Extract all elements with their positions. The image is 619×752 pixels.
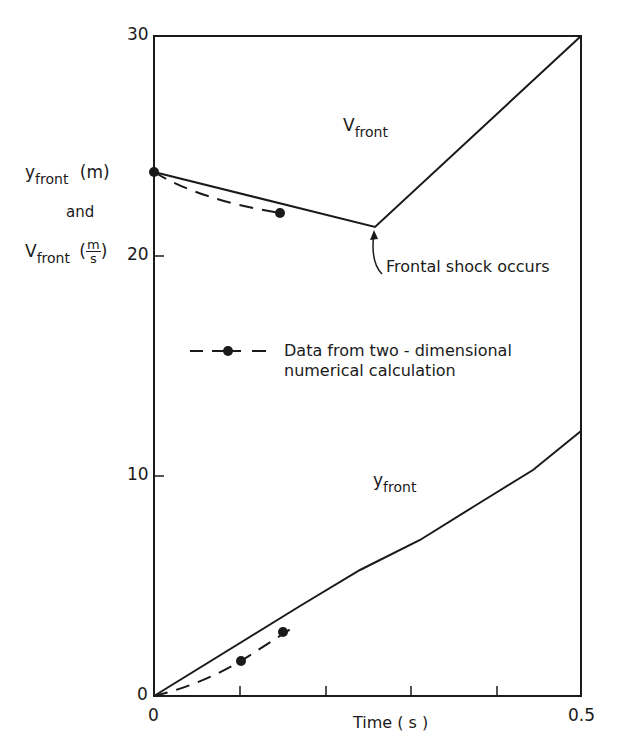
- yfront-series-label: yfront: [373, 470, 416, 490]
- y-axis-label-line1: yfront (m): [25, 162, 110, 182]
- x-axis-title: Time ( s ): [353, 713, 428, 732]
- data-point-marker: [236, 656, 246, 666]
- y-axis-label-line2: Vfront (ms): [25, 238, 107, 265]
- legend-label-line2: numerical calculation: [284, 361, 456, 380]
- frontal-shock-annotation: Frontal shock occurs: [386, 257, 550, 276]
- yfront-line: [154, 431, 581, 696]
- x-ticks: [240, 686, 497, 696]
- y-axis-label-and: and: [66, 203, 94, 221]
- x-tick-0: 0: [148, 705, 159, 725]
- arrow-head-icon: [370, 230, 378, 240]
- data-point-marker: [278, 627, 288, 637]
- vfront-numerical-dashed: [154, 172, 280, 213]
- y-tick-20: 20: [127, 244, 149, 264]
- data-point-marker: [149, 167, 159, 177]
- y-tick-0: 0: [137, 684, 148, 704]
- legend-marker: [223, 346, 233, 356]
- legend-label-line1: Data from two - dimensional: [284, 341, 512, 360]
- y-ticks: [154, 256, 164, 476]
- y-tick-30: 30: [127, 24, 149, 44]
- vfront-series-label: Vfront: [343, 115, 388, 135]
- yfront-numerical-dashed: [154, 625, 297, 696]
- x-tick-0-5: 0.5: [568, 705, 595, 725]
- data-point-marker: [275, 208, 285, 218]
- y-tick-10: 10: [127, 464, 149, 484]
